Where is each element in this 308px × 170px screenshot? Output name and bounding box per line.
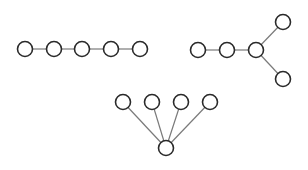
graph-node	[249, 43, 264, 58]
graph-node	[145, 95, 160, 110]
graph-edge	[166, 102, 210, 148]
star-graph	[116, 95, 218, 156]
graph-diagram-canvas	[0, 0, 308, 170]
graph-node	[75, 42, 90, 57]
graph-node	[159, 141, 174, 156]
graphs-layer	[18, 15, 291, 156]
graph-node	[104, 42, 119, 57]
path-graph	[18, 42, 148, 57]
graph-node	[220, 43, 235, 58]
graph-node	[191, 43, 206, 58]
graph-node	[18, 42, 33, 57]
graph-node	[133, 42, 148, 57]
graph-node	[276, 72, 291, 87]
graph-node	[47, 42, 62, 57]
graph-node	[116, 95, 131, 110]
graph-node	[174, 95, 189, 110]
graph-node	[276, 15, 291, 30]
graph-node	[203, 95, 218, 110]
fork-graph	[191, 15, 291, 87]
